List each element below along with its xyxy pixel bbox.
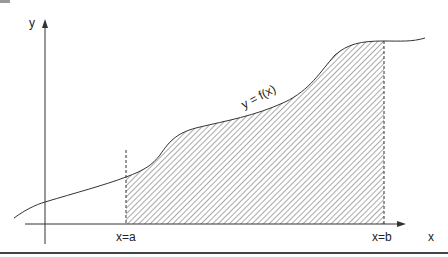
shaded-area	[126, 41, 384, 224]
x-axis-arrow-icon	[397, 221, 406, 227]
lower-bound-label: x=a	[116, 230, 136, 244]
upper-bound-label: x=b	[372, 230, 392, 244]
y-axis-label: y	[29, 16, 35, 30]
y-axis-arrow-icon	[42, 19, 48, 28]
corner-mark	[0, 0, 10, 3]
integral-diagram: y x x=a x=b y = f(x)	[0, 0, 448, 257]
x-axis-label: x	[428, 230, 434, 244]
